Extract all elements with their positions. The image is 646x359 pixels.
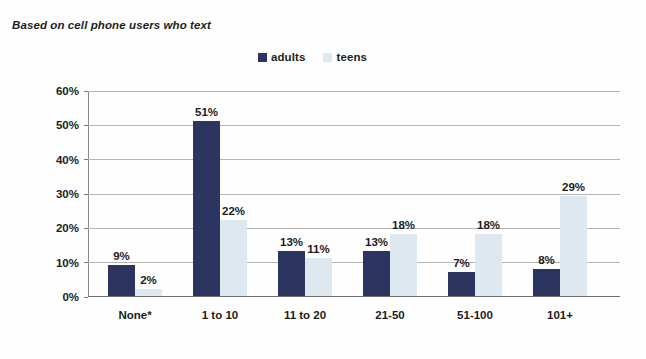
x-axis-label: 11 to 20 — [284, 309, 326, 321]
y-axis-tick — [84, 262, 88, 263]
y-axis-tick — [84, 91, 88, 92]
bar-adults-11-to-20[interactable] — [278, 251, 305, 296]
y-axis-label: 20% — [56, 222, 79, 234]
x-axis-label: 1 to 10 — [202, 309, 238, 321]
bar-teens-1-to-10[interactable] — [220, 220, 247, 296]
bar-teens-21-50[interactable] — [390, 234, 417, 296]
gridline — [88, 159, 620, 160]
gridline — [88, 91, 620, 92]
y-axis-tick — [84, 125, 88, 126]
square-swatch-icon — [323, 53, 332, 62]
bar-teens-101-[interactable] — [560, 196, 587, 296]
y-axis-label: 60% — [56, 85, 79, 97]
bar-value-teens: 29% — [562, 181, 585, 193]
bar-adults-none-[interactable] — [108, 265, 135, 296]
bar-value-teens: 2% — [140, 274, 157, 286]
bar-chart-figure: Based on cell phone users who text adult… — [0, 0, 646, 359]
gridline — [88, 228, 620, 229]
legend-entry-adults[interactable]: adults — [258, 51, 305, 63]
bar-adults-101-[interactable] — [533, 269, 560, 296]
bar-teens-51-100[interactable] — [475, 234, 502, 296]
y-axis-label: 10% — [56, 257, 79, 269]
y-axis-tick — [84, 159, 88, 160]
legend-entry-teens[interactable]: teens — [323, 51, 367, 63]
legend-label-adults: adults — [271, 51, 305, 63]
x-axis-line — [88, 296, 620, 297]
gridline — [88, 125, 620, 126]
y-axis-label: 30% — [56, 188, 79, 200]
x-axis-label: 101+ — [547, 309, 573, 321]
legend-label-teens: teens — [336, 51, 367, 63]
bar-value-adults: 7% — [453, 257, 470, 269]
bar-value-adults: 9% — [113, 250, 130, 262]
bar-value-adults: 13% — [280, 236, 303, 248]
y-axis-tick — [84, 228, 88, 229]
bar-value-adults: 8% — [538, 254, 555, 266]
bar-value-adults: 51% — [195, 106, 218, 118]
bar-value-adults: 13% — [365, 236, 388, 248]
y-axis-tick — [84, 297, 88, 298]
bar-teens-none-[interactable] — [135, 289, 162, 296]
bar-value-teens: 22% — [222, 205, 245, 217]
bar-adults-21-50[interactable] — [363, 251, 390, 296]
bar-adults-1-to-10[interactable] — [193, 121, 220, 296]
bar-teens-11-to-20[interactable] — [305, 258, 332, 296]
bar-value-teens: 18% — [477, 219, 500, 231]
x-axis-label: 51-100 — [457, 309, 493, 321]
plot-area: 0%10%20%30%40%50%60% 9%2%51%22%13%11%13%… — [88, 91, 620, 297]
bar-value-teens: 11% — [307, 243, 329, 255]
bar-adults-51-100[interactable] — [448, 272, 475, 296]
chart-legend: adults teens — [258, 51, 367, 63]
y-axis-label: 40% — [56, 154, 79, 166]
y-axis-label: 0% — [62, 291, 79, 303]
x-axis-label: None* — [118, 309, 151, 321]
gridline — [88, 194, 620, 195]
y-axis-tick — [84, 194, 88, 195]
bar-value-teens: 18% — [392, 219, 415, 231]
x-axis-label: 21-50 — [375, 309, 404, 321]
chart-caption: Based on cell phone users who text — [12, 19, 211, 31]
y-axis-label: 50% — [56, 119, 79, 131]
square-swatch-icon — [258, 53, 267, 62]
